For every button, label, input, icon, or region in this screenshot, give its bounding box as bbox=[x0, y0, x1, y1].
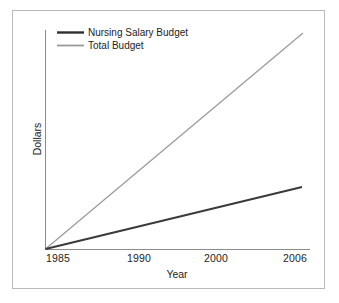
y-axis-title: Dollars bbox=[31, 109, 43, 169]
x-tick-label-2006: 2006 bbox=[283, 252, 307, 264]
legend-label-total-budget: Total Budget bbox=[88, 40, 144, 51]
legend-label-nursing-salary-budget: Nursing Salary Budget bbox=[88, 27, 188, 38]
series-line-nursing-salary-budget bbox=[46, 187, 303, 249]
series-line-total-budget bbox=[46, 33, 304, 249]
x-tick-label-1990: 1990 bbox=[127, 252, 151, 264]
x-tick-label-1985: 1985 bbox=[46, 252, 70, 264]
x-axis-title: Year bbox=[166, 268, 187, 280]
x-tick-label-2000: 2000 bbox=[204, 252, 228, 264]
